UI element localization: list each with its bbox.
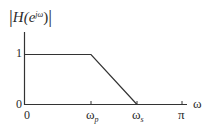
x-axis-label: ω (193, 97, 202, 110)
y-tick-1: 1 (16, 47, 22, 59)
y-tick-0: 0 (16, 98, 22, 110)
x-tick-pi: π (178, 108, 185, 121)
y-axis-label: |H(ejω)| (9, 6, 52, 25)
magnitude-response-diagram: |H(ejω)| 1 0 0 ωp ωs π ω (0, 0, 224, 127)
response-curve (25, 55, 138, 105)
x-tick-omega-s: ωs (132, 108, 144, 121)
x-tick-0: 0 (24, 109, 30, 121)
x-tick-omega-p: ωp (86, 108, 99, 121)
